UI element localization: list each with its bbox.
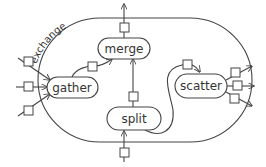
port-left-1[interactable] bbox=[24, 57, 33, 66]
node-merge-label: merge bbox=[105, 42, 144, 56]
diagram-canvas: exchange bbox=[0, 0, 266, 167]
edge-scatter-to-right-1 bbox=[226, 66, 252, 80]
port-scatter-in[interactable] bbox=[183, 60, 192, 69]
node-split[interactable]: split bbox=[107, 107, 161, 130]
port-merge-out[interactable] bbox=[120, 23, 129, 32]
port-right-1[interactable] bbox=[231, 68, 240, 77]
port-right-3[interactable] bbox=[230, 94, 239, 103]
edge-merge-to-top bbox=[120, 4, 129, 38]
edge-gather-to-merge bbox=[72, 59, 112, 77]
port-split-in[interactable] bbox=[120, 148, 129, 157]
port-left-3[interactable] bbox=[24, 106, 33, 115]
node-split-label: split bbox=[121, 112, 147, 126]
exchange-label: exchange bbox=[28, 20, 68, 65]
edge-bottom-to-split bbox=[120, 131, 129, 162]
port-gather-out[interactable] bbox=[88, 62, 97, 71]
edge-scatter-to-right-3 bbox=[226, 92, 252, 106]
node-scatter[interactable]: scatter bbox=[175, 74, 227, 98]
edge-left-2-to-gather bbox=[16, 82, 47, 91]
edge-scatter-to-right-2 bbox=[227, 81, 254, 90]
node-gather-label: gather bbox=[52, 81, 92, 95]
port-left-2[interactable] bbox=[24, 82, 33, 91]
port-right-2[interactable] bbox=[233, 81, 242, 90]
node-merge[interactable]: merge bbox=[98, 38, 150, 59]
edge-left-3-to-gather bbox=[18, 94, 50, 116]
node-scatter-label: scatter bbox=[180, 79, 222, 93]
port-split-out-up[interactable] bbox=[129, 92, 138, 101]
node-gather[interactable]: gather bbox=[47, 77, 98, 98]
edge-split-to-merge bbox=[129, 59, 138, 107]
